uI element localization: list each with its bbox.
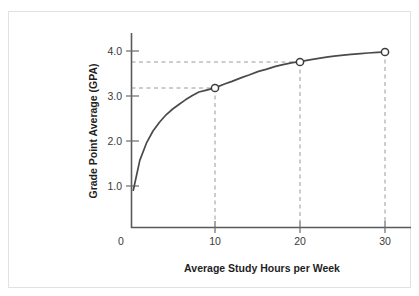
x-tick-label-0: 0	[118, 235, 124, 247]
y-tick-label-3: 3.0	[107, 90, 122, 102]
y-axis-title: Grade Point Average (GPA)	[87, 64, 99, 199]
x-tick-label-20: 20	[294, 235, 306, 247]
x-tick-label-30: 30	[379, 235, 391, 247]
y-tick-marks	[126, 51, 139, 186]
chart-screenshot: 4.0 3.0 2.0 1.0 0 10 20 30 Average Study…	[0, 0, 419, 296]
chart-plot-area: 4.0 3.0 2.0 1.0 0 10 20 30 Average Study…	[0, 0, 419, 296]
data-marker-20	[296, 58, 303, 65]
x-tick-label-10: 10	[209, 235, 221, 247]
x-tick-labels: 0 10 20 30	[118, 235, 391, 247]
guide-lines	[132, 52, 386, 221]
y-tick-label-2: 2.0	[107, 135, 122, 147]
x-axis-title: Average Study Hours per Week	[184, 262, 340, 274]
data-marker-10	[211, 84, 218, 91]
gpa-curve	[133, 52, 385, 190]
y-tick-labels: 4.0 3.0 2.0 1.0	[107, 45, 122, 192]
y-tick-label-1: 1.0	[107, 180, 122, 192]
data-marker-30	[381, 48, 388, 55]
y-tick-label-4: 4.0	[107, 45, 122, 57]
